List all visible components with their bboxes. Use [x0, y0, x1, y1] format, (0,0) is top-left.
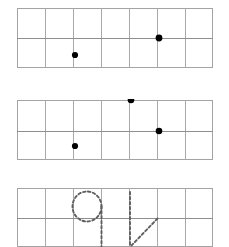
start-dot-3	[128, 99, 135, 103]
grid-lines-row-1	[17, 8, 213, 68]
start-dots-row-2	[72, 99, 162, 149]
grid-row-2-svg	[17, 99, 213, 161]
grid-lines-row-3	[17, 188, 213, 247]
dashed-glyph-nine	[73, 192, 102, 247]
practice-row-2	[17, 99, 213, 159]
grid-lines-row-2	[17, 100, 213, 160]
grid-row-1-svg	[17, 8, 213, 68]
practice-row-1	[17, 8, 213, 68]
grid-row-3-svg	[17, 188, 213, 247]
practice-row-3	[17, 188, 213, 247]
start-dot-4	[156, 128, 163, 135]
dashed-glyph-four	[130, 192, 158, 247]
start-dot-1	[72, 52, 78, 58]
handwriting-worksheet	[0, 0, 229, 247]
start-dot-2	[156, 35, 163, 42]
start-dot-5	[72, 143, 78, 149]
